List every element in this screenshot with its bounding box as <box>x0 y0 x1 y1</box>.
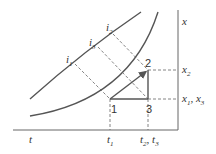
point-label-3: 3 <box>146 103 152 115</box>
upper-curve <box>30 12 141 99</box>
lower-curve <box>30 12 158 116</box>
tick-label-t1: t1 <box>107 133 114 148</box>
arrow-1-2 <box>110 72 146 100</box>
diagram-canvas: 1 2 3 i1 i3 i2 t x t1 t2, t3 x2 x1, x3 <box>0 0 216 154</box>
label-i1: i1 <box>66 53 73 68</box>
axis-label-t: t <box>29 133 33 145</box>
point-label-1: 1 <box>111 103 117 115</box>
axis-label-x: x <box>181 15 187 27</box>
tick-label-t2-t3: t2, t3 <box>140 133 159 148</box>
tick-label-x1-x3: x1, x3 <box>181 92 205 107</box>
dashed-line-i3 <box>98 47 148 99</box>
dashed-line-i1 <box>75 64 110 99</box>
label-i2: i2 <box>106 21 113 36</box>
tick-label-x2: x2 <box>181 63 191 78</box>
point-label-2: 2 <box>145 57 151 69</box>
